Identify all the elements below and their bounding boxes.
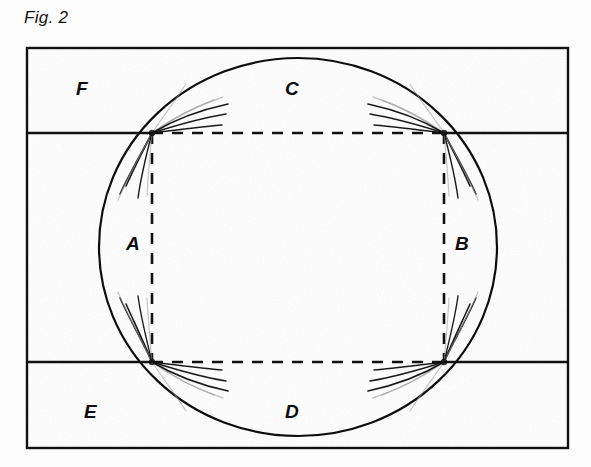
region-label-e: E bbox=[84, 401, 98, 422]
figure-drawing: FCABED bbox=[0, 0, 591, 467]
fan-top-left-origin-node bbox=[149, 130, 155, 136]
region-label-a: A bbox=[125, 233, 140, 254]
region-label-b: B bbox=[455, 233, 469, 254]
region-label-d: D bbox=[285, 401, 299, 422]
fan-bottom-left-origin-node bbox=[149, 359, 155, 365]
fan-top-right-origin-node bbox=[441, 130, 447, 136]
fan-bottom-right-origin-node bbox=[441, 359, 447, 365]
region-label-c: C bbox=[285, 78, 299, 99]
region-label-f: F bbox=[76, 78, 89, 99]
paper-texture bbox=[28, 49, 567, 447]
figure-container: Fig. 2 bbox=[0, 0, 591, 467]
